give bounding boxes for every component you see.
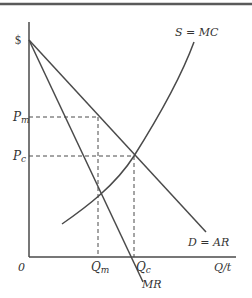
price-monopoly-label: Pm [12,110,30,125]
price-competitive-label: Pc [12,149,26,164]
marginal-revenue-label: MR [141,278,162,291]
demand-curve [29,40,206,232]
quantity-competitive-label: Qc [136,260,151,275]
marginal-revenue-curve [29,40,143,282]
demand-curve-label: D = AR [187,236,229,249]
supply-curve-label: S = MC [175,26,219,39]
quantity-monopoly-label: Qm [91,260,109,275]
y-axis-label: $ [15,33,21,47]
x-axis-label: Q/t [214,261,232,274]
monopoly-diagram: $ 0 Q/t Pm Pc Qm Qc S = MC D = AR MR [0,0,252,298]
origin-label: 0 [18,261,25,274]
